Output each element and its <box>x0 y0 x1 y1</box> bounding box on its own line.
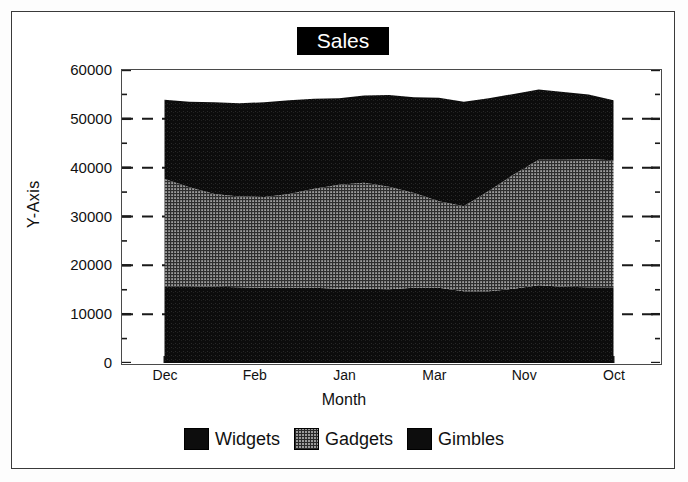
legend: Widgets Gadgets Gimbles <box>0 428 688 450</box>
x-tick-label: Jan <box>315 368 375 382</box>
area-band-gimbles <box>165 285 614 363</box>
x-tick-label: Mar <box>404 368 464 382</box>
x-tick-label: Feb <box>225 368 285 382</box>
plot-area <box>121 69 662 365</box>
x-tick-label: Oct <box>584 368 644 382</box>
black-swatch-icon <box>184 428 209 450</box>
legend-label-gimbles: Gimbles <box>438 429 504 449</box>
chart-title: Sales <box>297 27 389 55</box>
area-bands <box>165 90 614 363</box>
legend-item-widgets[interactable]: Widgets <box>184 428 280 450</box>
x-tick-label: Dec <box>135 368 195 382</box>
legend-label-widgets: Widgets <box>215 429 280 449</box>
legend-item-gadgets[interactable]: Gadgets <box>294 428 393 450</box>
x-axis-title: Month <box>0 391 688 409</box>
stacked-area-plot <box>122 70 660 363</box>
gray-dotted-swatch-icon <box>294 428 319 450</box>
chart-screenshot: Sales Y-Axis 600005 <box>0 0 688 482</box>
legend-label-gadgets: Gadgets <box>325 429 393 449</box>
black-swatch-icon <box>407 428 432 450</box>
legend-item-gimbles[interactable]: Gimbles <box>407 428 504 450</box>
y-axis-title: Y-Axis <box>25 149 43 259</box>
x-tick-label: Nov <box>494 368 554 382</box>
